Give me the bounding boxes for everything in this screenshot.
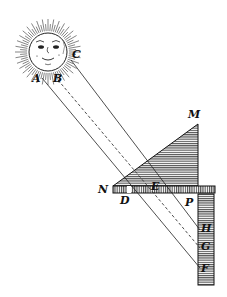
label-c: C — [72, 48, 81, 61]
label-e: E — [150, 180, 160, 193]
prism-triangle — [113, 124, 198, 186]
label-d: D — [119, 194, 130, 207]
label-p: P — [184, 196, 194, 209]
label-a: A — [31, 72, 41, 85]
label-h: H — [200, 222, 212, 235]
diagram-canvas: A B C M N D E P H G F — [0, 0, 227, 297]
label-b: B — [52, 72, 62, 85]
sun-icon — [29, 33, 67, 71]
label-m: M — [187, 108, 201, 121]
label-f: F — [200, 262, 210, 275]
label-n: N — [97, 183, 109, 196]
label-g: G — [201, 240, 210, 253]
